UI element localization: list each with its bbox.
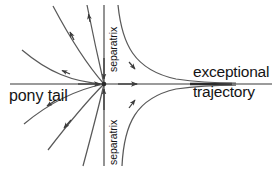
label-separatrix-bottom: separatrix [107, 120, 119, 165]
arrowhead-fan-upper-3 [89, 14, 91, 22]
trajectory-fan-upper-1 [22, 50, 104, 84]
phase-portrait-figure: pony tail exceptional trajectory separat… [0, 0, 280, 170]
label-pony-tail: pony tail [9, 88, 68, 104]
label-exceptional: exceptional [193, 64, 269, 80]
trajectory-fan-lower-3 [83, 84, 104, 166]
label-separatrix-top: separatrix [107, 27, 119, 72]
label-trajectory: trajectory [193, 84, 255, 100]
trajectory-fan-upper-2 [53, 6, 104, 84]
arrowhead-fan-lower-2 [64, 120, 71, 128]
fixed-point-marker [102, 82, 107, 87]
arrowhead-hyperbola-upper-right [129, 62, 135, 69]
arrowhead-hyperbola-lower-right [129, 100, 135, 108]
arrowhead-fan-upper-1 [62, 71, 70, 75]
